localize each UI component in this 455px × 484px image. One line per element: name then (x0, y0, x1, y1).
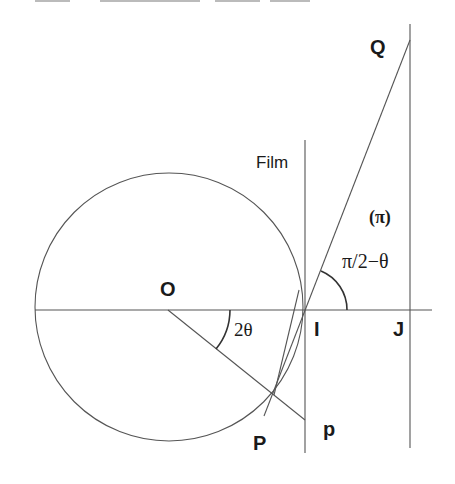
label-i: I (314, 318, 320, 340)
label-plane-pi: (π) (369, 207, 391, 228)
label-film: Film (256, 153, 288, 172)
diffraction-diagram: Q Film (π) π/2−θ O 2θ I J P p (0, 0, 455, 484)
label-o: O (160, 278, 176, 300)
line-q-to-p (264, 40, 410, 416)
label-2theta: 2θ (234, 319, 253, 340)
reflection-circle (35, 173, 303, 441)
tangent-line (274, 290, 299, 395)
label-q: Q (370, 36, 386, 58)
label-j: J (393, 318, 404, 340)
angle-arc-2theta (216, 310, 230, 349)
angle-arc-right (321, 271, 347, 310)
label-p-lower: p (323, 418, 335, 440)
label-angle-right: π/2−θ (342, 250, 389, 272)
label-p-upper: P (253, 432, 266, 454)
